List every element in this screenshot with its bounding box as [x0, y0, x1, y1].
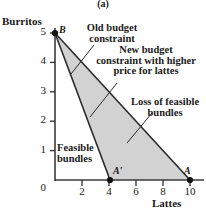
- x-tick-label-8: 8: [156, 186, 170, 197]
- x-tick-label-6: 6: [129, 186, 143, 197]
- feasible-bundles-annotation: Feasible bundles: [57, 143, 109, 164]
- x-axis-title: Lattes: [152, 198, 181, 209]
- point-a-marker: [187, 177, 193, 183]
- y-tick-label-5: 5: [32, 26, 46, 37]
- y-tick-label-4: 4: [32, 55, 46, 66]
- x-tick-label-4: 4: [102, 186, 116, 197]
- point-a-prime-label: A′: [113, 166, 122, 176]
- point-b-marker: [52, 30, 58, 36]
- point-a-prime-marker: [107, 177, 113, 183]
- y-tick-label-1: 1: [32, 144, 46, 155]
- y-tick-label-2: 2: [32, 114, 46, 125]
- new-budget-constraint-annotation: New budget constraint with higher price …: [86, 45, 206, 77]
- loss-of-feasible-bundles-annotation: Loss of feasible bundles: [124, 97, 206, 118]
- y-tick-label-0: 0: [32, 182, 46, 193]
- x-tick-label-10: 10: [183, 186, 197, 197]
- old-budget-constraint-annotation: Old budget constraint: [72, 23, 152, 44]
- point-b-label: B: [59, 25, 66, 35]
- budget-constraint-figure: (a): [0, 0, 206, 214]
- point-a-label: A: [184, 166, 191, 176]
- x-tick-label-2: 2: [75, 186, 89, 197]
- y-tick-label-3: 3: [32, 85, 46, 96]
